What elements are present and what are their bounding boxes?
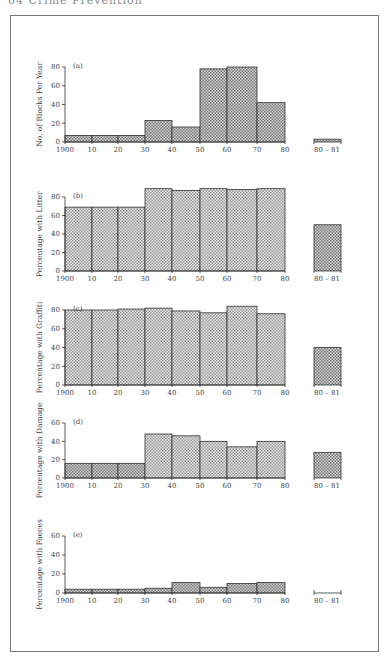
y-tick-label: 80 [51,63,60,71]
x-tick-label: 70 [253,389,262,397]
bar [200,441,227,478]
x-tick-label: 30 [141,482,150,490]
x-tick-label: 80 – 81 [314,275,340,283]
x-tick-label: 1900 [56,482,74,490]
x-tick-label: 70 [253,597,262,605]
bar [118,309,145,385]
x-tick-label: 1900 [56,389,74,397]
bar [200,313,227,385]
bar-80-81 [314,225,341,271]
x-tick-label: 30 [141,146,150,154]
y-tick-label: 60 [51,325,60,333]
bar [145,120,172,142]
bar [172,191,200,271]
y-axis-label: Percentage with Faeces [35,519,44,610]
bar-80-81 [314,348,341,386]
y-axis-label: No. of Blocks Per Year [35,62,44,147]
bar [65,463,92,478]
panel-label: (e) [73,531,83,539]
y-tick-label: 40 [51,230,60,238]
y-tick-label: 60 [51,82,60,90]
x-tick-label: 20 [114,275,123,283]
x-tick-label: 80 – 81 [314,597,340,605]
x-tick-label: 70 [253,275,262,283]
x-tick-label: 1900 [56,275,74,283]
bar [200,587,227,593]
y-tick-label: 60 [51,212,60,220]
y-tick-label: 20 [51,570,60,578]
x-tick-label: 1900 [56,146,74,154]
bar [118,589,145,593]
x-tick-label: 30 [141,597,150,605]
bar-80-81 [314,590,341,593]
chart-panel-a: 0204060801900102030405060708080 – 81(a)N… [35,62,341,154]
x-tick-label: 80 [281,389,290,397]
bar [257,189,285,271]
panel-label: (c) [73,305,83,313]
bar [145,308,172,385]
bar [227,584,257,594]
bar [172,583,200,593]
x-tick-label: 50 [196,597,205,605]
y-tick-label: 20 [51,456,60,464]
y-tick-label: 40 [51,438,60,446]
x-tick-label: 40 [168,146,177,154]
chart-panel-d: 02040601900102030405060708080 – 81(d)Per… [35,402,341,498]
x-tick-label: 60 [223,482,232,490]
x-tick-label: 30 [141,389,150,397]
x-tick-label: 80 [281,482,290,490]
x-tick-label: 40 [168,597,177,605]
bar [257,583,285,593]
x-tick-label: 60 [223,146,232,154]
bar [227,306,257,385]
x-tick-label: 20 [114,389,123,397]
x-tick-label: 50 [196,389,205,397]
y-axis-label: Percentage with Litter [35,191,44,277]
panel-label: (a) [73,62,83,70]
x-tick-label: 10 [88,146,97,154]
y-tick-label: 40 [51,101,60,109]
chart-panel-c: 0204060801900102030405060708080 – 81(c)P… [35,301,341,397]
bar [172,436,200,478]
bar [65,589,92,593]
bar [92,310,118,385]
bar [65,207,92,271]
bar [145,189,172,271]
panel-label: (b) [73,192,83,200]
x-tick-label: 80 – 81 [314,482,340,490]
bar [200,69,227,142]
x-tick-label: 10 [88,275,97,283]
x-tick-label: 10 [88,482,97,490]
bar-80-81 [314,452,341,478]
panel-label: (d) [73,418,83,426]
x-tick-label: 20 [114,146,123,154]
x-tick-label: 80 [281,275,290,283]
x-tick-label: 20 [114,482,123,490]
bar [227,190,257,271]
bar [227,447,257,478]
bar [200,189,227,271]
x-tick-label: 80 – 81 [314,146,340,154]
x-tick-label: 60 [223,389,232,397]
x-tick-label: 60 [223,275,232,283]
bar [92,135,118,142]
y-tick-label: 20 [51,120,60,128]
x-tick-label: 40 [168,482,177,490]
bar [172,311,200,385]
x-tick-label: 70 [253,482,262,490]
bar [118,207,145,271]
chart-panel-e: 02040601900102030405060708080 – 81(e)Per… [35,519,341,610]
x-tick-label: 70 [253,146,262,154]
y-tick-label: 80 [51,193,60,201]
y-tick-label: 20 [51,249,60,257]
y-tick-label: 40 [51,344,60,352]
x-tick-label: 40 [168,275,177,283]
bar [118,135,145,142]
bar-80-81 [314,139,341,142]
bar [65,310,92,385]
x-tick-label: 10 [88,597,97,605]
bar [257,441,285,478]
x-tick-label: 80 – 81 [314,389,340,397]
bar [92,589,118,593]
bar [145,434,172,478]
